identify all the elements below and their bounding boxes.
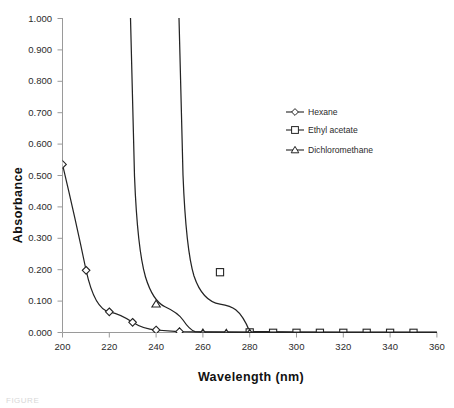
ethyl-acetate-curve: [179, 18, 437, 332]
diamond-marker-icon: [292, 109, 299, 116]
series-hexane: [59, 161, 437, 336]
legend-item-hexane: Hexane: [286, 107, 338, 117]
hexane-point: [106, 308, 114, 316]
y-tick-label: 0.900: [28, 44, 52, 55]
y-tick-label: 0.400: [28, 201, 52, 212]
legend-item-dichloromethane: Dichloromethane: [286, 145, 373, 155]
y-tick-label: 0.500: [28, 170, 52, 181]
y-tick-label: 0.800: [28, 75, 52, 86]
hexane-point: [82, 267, 90, 275]
dichloromethane-curve: [131, 18, 437, 332]
x-axis-tick-labels: 200 220 240 260 280 300 320 340 360: [55, 341, 445, 352]
y-tick-label: 0.300: [28, 232, 52, 243]
ethyl-acetate-point: [216, 269, 223, 276]
y-axis-ticks: [58, 19, 63, 333]
x-tick-label: 220: [101, 341, 117, 352]
x-axis-title: Wavelength (nm): [198, 370, 304, 384]
chart-svg: 0.000 0.100 0.200 0.300 0.400 0.500 0.60…: [0, 0, 454, 408]
x-tick-label: 300: [289, 341, 305, 352]
x-tick-label: 280: [242, 341, 258, 352]
series-ethyl-acetate: [179, 18, 437, 336]
absorbance-chart-figure: 0.000 0.100 0.200 0.300 0.400 0.500 0.60…: [0, 0, 454, 408]
dichloromethane-point: [152, 300, 160, 307]
y-tick-label: 0.700: [28, 107, 52, 118]
legend-label-hexane: Hexane: [308, 107, 338, 117]
figure-caption: FIGURE: [6, 396, 39, 405]
y-axis-tick-labels: 0.000 0.100 0.200 0.300 0.400 0.500 0.60…: [28, 13, 52, 338]
chart-legend: Hexane Ethyl acetate Dichloromethane: [286, 107, 373, 155]
y-tick-label: 0.000: [28, 327, 52, 338]
legend-item-ethyl-acetate: Ethyl acetate: [286, 125, 358, 135]
x-tick-label: 320: [335, 341, 351, 352]
x-tick-label: 260: [195, 341, 211, 352]
hexane-curve: [63, 164, 437, 332]
x-tick-label: 240: [148, 341, 164, 352]
legend-label-ethyl-acetate: Ethyl acetate: [308, 125, 358, 135]
y-axis-title: Absorbance: [11, 167, 25, 243]
legend-label-dichloromethane: Dichloromethane: [308, 145, 373, 155]
y-tick-label: 0.600: [28, 138, 52, 149]
hexane-point: [59, 161, 67, 169]
x-axis-ticks: [63, 333, 437, 338]
hexane-point: [176, 328, 184, 336]
x-tick-label: 340: [382, 341, 398, 352]
hexane-point: [129, 319, 137, 327]
y-tick-label: 0.100: [28, 295, 52, 306]
x-tick-label: 360: [429, 341, 445, 352]
series-dichloromethane: [131, 18, 437, 336]
x-tick-label: 200: [55, 341, 71, 352]
square-marker-icon: [292, 127, 299, 134]
y-tick-label: 0.200: [28, 264, 52, 275]
y-tick-label: 1.000: [28, 13, 52, 24]
